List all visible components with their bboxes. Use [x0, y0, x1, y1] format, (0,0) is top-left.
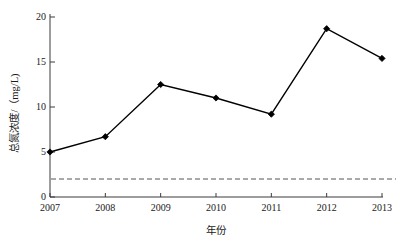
x-tick-label: 2012	[305, 202, 349, 214]
data-point-marker	[47, 149, 53, 155]
x-tick-label: 2013	[360, 202, 402, 214]
x-tick-label: 2010	[194, 202, 238, 214]
axis-ticks	[50, 17, 382, 197]
series-line	[50, 29, 382, 152]
x-tick-label: 2008	[83, 202, 127, 214]
x-tick-label: 2011	[249, 202, 293, 214]
line-chart-figure: 总氮浓度/（mg/L) 05101520 2007200820092010201…	[0, 0, 402, 250]
x-axis-title: 年份	[50, 224, 382, 238]
data-point-markers	[47, 26, 385, 156]
x-tick-label: 2007	[28, 202, 72, 214]
x-axis-tick-labels: 2007200820092010201120122013	[0, 202, 402, 218]
axis-lines	[50, 14, 383, 197]
data-point-marker	[213, 95, 219, 101]
x-tick-label: 2009	[139, 202, 183, 214]
data-point-marker	[379, 55, 385, 61]
data-series-group	[50, 29, 382, 152]
